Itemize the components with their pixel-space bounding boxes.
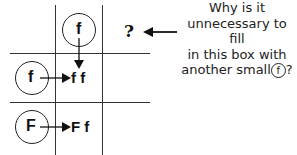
note-line-4-prefix: another small: [181, 62, 271, 77]
grid-line-horizontal-2: [10, 102, 150, 103]
arrow-right-icon: [40, 73, 72, 83]
question-note: Why is it unnecessary to fill in this bo…: [178, 0, 296, 78]
grid-line-vertical-2: [102, 5, 103, 155]
note-line-4-suffix: ?: [286, 62, 293, 77]
arrow-down-icon: [74, 38, 84, 70]
row1-allele-label: f: [28, 68, 33, 86]
note-line-3: in this box with: [178, 47, 296, 63]
note-line-2: unnecessary to fill: [178, 16, 296, 47]
row2-offspring: F f: [71, 118, 89, 135]
row2-allele-label: F: [26, 117, 36, 135]
top-allele-label: f: [76, 20, 81, 38]
arrow-right-icon: [40, 122, 72, 132]
small-f-circle-icon: f: [271, 63, 286, 78]
arrow-left-icon: [143, 27, 177, 37]
question-mark: ?: [124, 21, 134, 41]
note-line-4: another smallf?: [178, 62, 296, 78]
note-line-1: Why is it: [178, 0, 296, 16]
row1-offspring: f f: [71, 69, 85, 86]
